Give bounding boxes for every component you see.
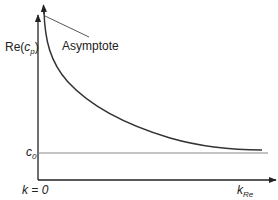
curve-arrowhead <box>44 5 45 14</box>
asymptote-label: Asymptote <box>62 40 119 52</box>
k-zero-label: k = 0 <box>22 184 48 196</box>
y-axis-label: Re(cp) <box>5 41 39 56</box>
chart-canvas <box>0 0 278 200</box>
c0-label: c0 <box>26 146 36 161</box>
re-cp-curve <box>44 12 262 150</box>
asymptote-leader-line <box>45 16 89 37</box>
x-axis-label: kRe <box>237 184 253 199</box>
